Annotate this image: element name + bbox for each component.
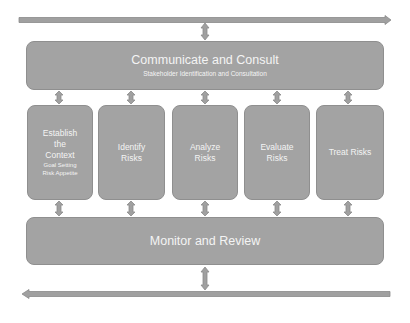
double-arrow-icon bbox=[201, 267, 209, 290]
step-treat-risks: Treat Risks bbox=[316, 105, 384, 200]
step-title-line: Risks bbox=[121, 153, 142, 164]
step-sub-line: Goal Setting bbox=[43, 161, 76, 169]
step-establish-context: Establish the Context Goal Setting Risk … bbox=[27, 105, 93, 200]
step-title-line: Establish bbox=[43, 128, 78, 139]
communicate-consult-box: Communicate and Consult Stakeholder Iden… bbox=[26, 41, 384, 90]
step-title-line: Evaluate bbox=[260, 142, 293, 153]
step-sub-line: Risk Appetite bbox=[42, 169, 77, 177]
communicate-consult-title: Communicate and Consult bbox=[131, 53, 278, 67]
double-arrow-icon bbox=[55, 91, 63, 104]
double-arrow-icon bbox=[127, 91, 135, 104]
bottom-left-arrow-icon bbox=[22, 290, 390, 299]
monitor-review-box: Monitor and Review bbox=[26, 217, 384, 265]
double-arrow-icon bbox=[201, 23, 209, 40]
double-arrow-icon bbox=[127, 201, 135, 216]
double-arrow-icon bbox=[273, 201, 281, 216]
double-arrow-icon bbox=[201, 201, 209, 216]
step-title-line: Identify bbox=[118, 142, 145, 153]
step-title-line: Analyze bbox=[190, 142, 220, 153]
step-title-line: Risks bbox=[195, 153, 216, 164]
double-arrow-icon bbox=[344, 91, 352, 104]
monitor-review-title: Monitor and Review bbox=[150, 234, 260, 248]
double-arrow-icon bbox=[273, 91, 281, 104]
step-identify-risks: Identify Risks bbox=[98, 105, 165, 200]
step-title-line: Treat Risks bbox=[329, 147, 372, 158]
double-arrow-icon bbox=[344, 201, 352, 216]
step-title-line: the bbox=[54, 139, 66, 150]
step-analyze-risks: Analyze Risks bbox=[172, 105, 238, 200]
step-evaluate-risks: Evaluate Risks bbox=[244, 105, 310, 200]
double-arrow-icon bbox=[55, 201, 63, 216]
step-title-line: Context bbox=[45, 150, 74, 161]
communicate-consult-subtitle: Stakeholder Identification and Consultat… bbox=[143, 69, 267, 78]
double-arrow-icon bbox=[201, 91, 209, 104]
step-title-line: Risks bbox=[267, 153, 288, 164]
